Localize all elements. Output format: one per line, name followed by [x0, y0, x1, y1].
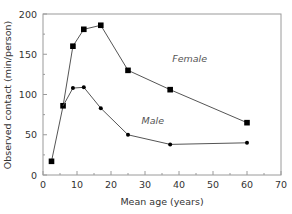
y-tick-label: 50 [25, 129, 37, 140]
circle-marker [168, 142, 172, 146]
x-tick-label: 70 [275, 179, 287, 190]
axis-ticks: 010203040506070050100150200 [19, 9, 287, 191]
x-tick-label: 40 [173, 179, 185, 190]
x-tick-label: 10 [71, 179, 83, 190]
y-tick-label: 0 [31, 170, 37, 181]
square-marker [81, 26, 87, 32]
y-tick-label: 200 [19, 9, 37, 20]
circle-marker [99, 106, 103, 110]
square-marker [70, 43, 76, 49]
series-labels: FemaleMale [142, 53, 208, 126]
data-series [49, 22, 250, 164]
square-marker [125, 68, 131, 74]
x-tick-label: 60 [241, 179, 253, 190]
circle-marker [245, 141, 249, 145]
line-chart: 010203040506070050100150200 FemaleMale M… [0, 0, 292, 214]
x-tick-label: 0 [40, 179, 46, 190]
circle-marker [71, 86, 75, 90]
circle-marker [126, 133, 130, 137]
label-female: Female [172, 53, 207, 64]
plot-frame [43, 14, 281, 175]
square-marker [98, 22, 104, 28]
x-tick-label: 50 [207, 179, 219, 190]
square-marker [49, 159, 55, 165]
y-axis-label: Observed contact (min/person) [2, 21, 13, 169]
label-male: Male [142, 115, 165, 126]
square-marker [167, 87, 173, 93]
plot-border [43, 14, 281, 175]
square-marker [244, 120, 250, 126]
x-tick-label: 20 [105, 179, 117, 190]
x-axis-label: Mean age (years) [120, 196, 203, 207]
series-female [49, 22, 250, 164]
x-tick-label: 30 [139, 179, 151, 190]
y-tick-label: 100 [19, 89, 37, 100]
y-tick-label: 150 [19, 49, 37, 60]
circle-marker [82, 85, 86, 89]
